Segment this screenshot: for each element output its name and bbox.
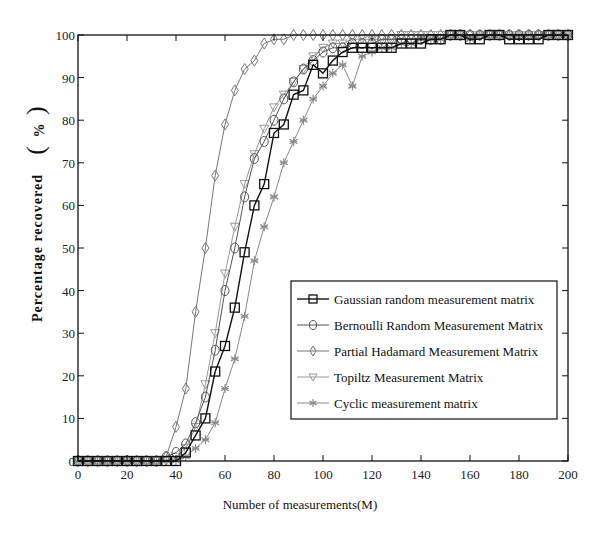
line-chart: 0204060801001201401601802000102030405060… (0, 0, 599, 540)
asterisk-marker-icon (290, 137, 298, 146)
asterisk-marker-icon (211, 418, 219, 427)
asterisk-marker-icon (251, 256, 259, 265)
x-tick-label: 160 (460, 467, 480, 482)
asterisk-marker-icon (241, 312, 249, 321)
legend-label: Cyclic measurement matrix (334, 396, 478, 411)
legend-label: Topiltz Measurement Matrix (334, 370, 484, 385)
y-tick-label: 20 (62, 369, 75, 384)
asterisk-marker-icon (270, 192, 278, 201)
x-tick-label: 0 (75, 467, 82, 482)
asterisk-marker-icon (192, 444, 200, 453)
x-tick-label: 20 (121, 467, 134, 482)
x-tick-label: 80 (268, 467, 281, 482)
asterisk-marker-icon (358, 52, 366, 61)
asterisk-marker-icon (300, 116, 308, 125)
x-tick-label: 120 (362, 467, 382, 482)
x-tick-label: 40 (170, 467, 183, 482)
x-tick-label: 60 (219, 467, 232, 482)
asterisk-marker-icon (280, 158, 288, 167)
asterisk-marker-icon (202, 435, 210, 444)
y-tick-label: 100 (56, 28, 76, 43)
x-tick-label: 140 (411, 467, 431, 482)
asterisk-marker-icon (231, 354, 239, 363)
y-tick-label: 70 (62, 156, 75, 171)
x-tick-label: 200 (558, 467, 578, 482)
y-axis-title-text: Percentage recovered (30, 174, 45, 322)
y-axis-title: Percentage recovered ( % ) (21, 105, 50, 322)
y-tick-label: 50 (62, 241, 75, 256)
y-tick-label: 80 (62, 113, 75, 128)
y-tick-label: 30 (62, 326, 75, 341)
asterisk-marker-icon (221, 384, 229, 393)
legend-label: Partial Hadamard Measurement Matrix (334, 344, 538, 359)
y-tick-label: 0 (69, 454, 76, 469)
asterisk-marker-icon (339, 60, 347, 69)
asterisk-marker-icon (349, 82, 357, 91)
x-axis-title: Number of measurements(M) (223, 497, 378, 512)
asterisk-marker-icon (260, 222, 268, 231)
x-tick-label: 100 (313, 467, 333, 482)
y-axis-unit: ( % ) (21, 105, 50, 154)
y-tick-label: 90 (62, 71, 75, 86)
legend-item: Bernoulli Random Measurement Matrix (297, 318, 544, 333)
legend-label: Bernoulli Random Measurement Matrix (334, 318, 544, 333)
y-tick-label: 10 (62, 411, 75, 426)
legend-item: Partial Hadamard Measurement Matrix (297, 344, 538, 359)
y-tick-label: 40 (62, 284, 75, 299)
legend: Gaussian random measurement matrixBernou… (291, 281, 557, 419)
y-tick-label: 60 (62, 198, 75, 213)
x-tick-label: 180 (509, 467, 529, 482)
legend-label: Gaussian random measurement matrix (334, 292, 535, 307)
